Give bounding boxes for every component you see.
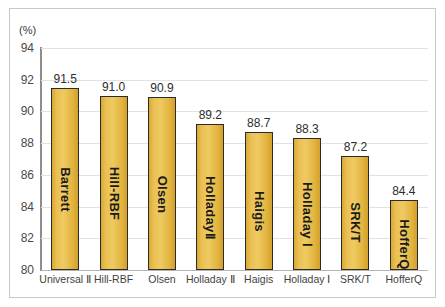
plot-area: Barrett91.5Hill-RBF91.0Olsen90.9Holladay…	[41, 48, 428, 270]
bar-group[interactable]: Hill-RBF91.0	[100, 48, 128, 270]
bar-inner-label: Holladay Ⅰ	[300, 182, 315, 247]
y-tick-label-80: 80	[8, 263, 34, 277]
y-tick-label-88: 88	[8, 136, 34, 150]
y-tick-label-92: 92	[8, 73, 34, 87]
y-axis-unit-label: (%)	[19, 24, 36, 36]
bar-group[interactable]: Haigis88.7	[245, 48, 273, 270]
bar-group[interactable]: HolladayⅡ89.2	[196, 48, 224, 270]
bar-inner-label: Hill-RBF	[106, 167, 121, 221]
bar-chart-figure: (%) 9492908886848280 Barrett91.5Hill-RBF…	[0, 0, 445, 307]
x-tick-label: Hill-RBF	[94, 273, 133, 285]
bar-group[interactable]: Barrett91.5	[51, 48, 79, 270]
bar-value-label: 90.9	[150, 81, 173, 95]
x-tick-label: SRK/T	[340, 273, 371, 285]
bar-value-label: 88.3	[295, 122, 318, 136]
bar-inner-label: Olsen	[154, 176, 169, 214]
bar-group[interactable]: HofferQ84.4	[390, 48, 418, 270]
gridline-80	[41, 270, 428, 271]
x-tick-label: Holladay Ⅱ	[186, 273, 235, 285]
y-tick-label-90: 90	[8, 104, 34, 118]
bar-value-label: 91.5	[54, 72, 77, 86]
x-tick-label: Universal Ⅱ	[39, 273, 91, 285]
bar-value-label: 84.4	[392, 184, 415, 198]
bar-value-label: 87.2	[344, 140, 367, 154]
bar-group[interactable]: Olsen90.9	[148, 48, 176, 270]
bar-inner-label: Barrett	[58, 168, 73, 213]
y-tick-label-82: 82	[8, 231, 34, 245]
x-tick-label: Haigis	[244, 273, 273, 285]
x-tick-label: Holladay Ⅰ	[284, 273, 331, 285]
bar-inner-label: HofferQ	[396, 219, 411, 270]
bar-value-label: 91.0	[102, 80, 125, 94]
bar-value-label: 89.2	[199, 108, 222, 122]
x-axis-category-labels: Universal ⅡHill-RBFOlsenHolladay ⅡHaigis…	[41, 273, 428, 293]
y-tick-label-84: 84	[8, 200, 34, 214]
bar-inner-label: HolladayⅡ	[203, 176, 218, 239]
bar-group[interactable]: Holladay Ⅰ88.3	[293, 48, 321, 270]
x-tick-label: HofferQ	[386, 273, 423, 285]
y-tick-label-94: 94	[8, 41, 34, 55]
x-tick-label: Olsen	[148, 273, 175, 285]
y-axis-tick-labels: 9492908886848280	[8, 48, 34, 270]
y-tick-label-86: 86	[8, 168, 34, 182]
bar-inner-label: Haigis	[251, 191, 266, 232]
bar-value-label: 88.7	[247, 116, 270, 130]
bar-inner-label: SRK/T	[348, 202, 363, 243]
bar-group[interactable]: SRK/T87.2	[341, 48, 369, 270]
